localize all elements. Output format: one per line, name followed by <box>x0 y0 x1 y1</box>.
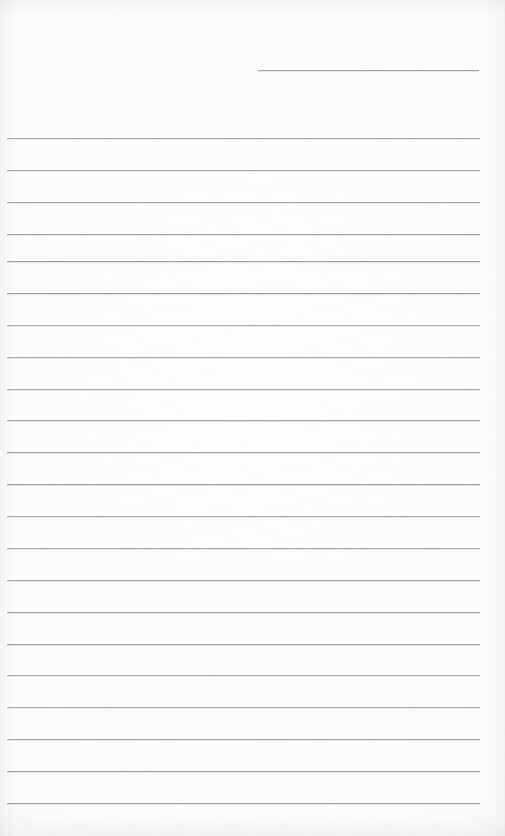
rule-line <box>7 739 480 740</box>
rule-line-partial <box>258 70 479 71</box>
rule-line <box>7 170 480 171</box>
rule-line <box>7 357 480 358</box>
rule-line <box>7 644 480 645</box>
rule-line <box>7 580 480 581</box>
rule-line <box>7 803 480 804</box>
rule-line <box>7 293 480 294</box>
rule-line <box>7 516 480 517</box>
rule-line <box>7 261 480 262</box>
rule-line <box>7 771 480 772</box>
ruled-lines-layer <box>0 0 505 836</box>
rule-line <box>7 138 480 139</box>
rule-line <box>7 548 480 549</box>
rule-line <box>7 420 480 421</box>
rule-line <box>7 202 480 203</box>
rule-line <box>7 234 480 235</box>
rule-line <box>7 452 480 453</box>
rule-line <box>7 389 480 390</box>
rule-line <box>7 707 480 708</box>
rule-line <box>7 325 480 326</box>
rule-line <box>7 612 480 613</box>
rule-line <box>7 484 480 485</box>
notebook-page <box>0 0 505 836</box>
rule-line <box>7 675 480 676</box>
